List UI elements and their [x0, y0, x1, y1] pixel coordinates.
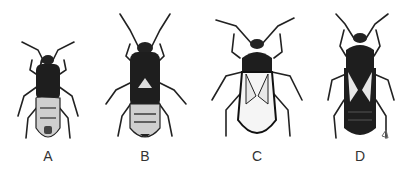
specimen-label-a: A: [38, 148, 58, 164]
specimen-label-d: D: [350, 148, 370, 164]
insect-figure: A B C D: [0, 0, 414, 174]
specimen-label-b: B: [135, 148, 155, 164]
specimen-label-c: C: [247, 148, 267, 164]
